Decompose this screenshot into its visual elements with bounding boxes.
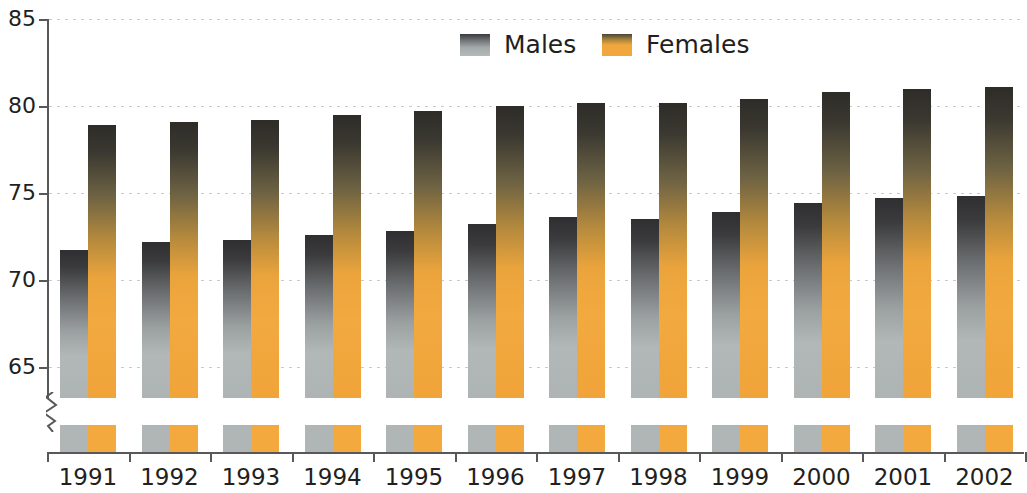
gridline-80: [49, 106, 1024, 107]
x-tick-1992: [129, 452, 131, 462]
bar-stub-females-2000: [822, 425, 850, 452]
x-axis-label-1991: 1991: [47, 463, 129, 491]
bar-stub-males-1999: [712, 425, 740, 452]
x-tick-1995: [373, 452, 375, 462]
bar-stub-males-1994: [305, 425, 333, 452]
bar-females-2000: [822, 92, 850, 398]
bar-males-1996: [468, 224, 496, 398]
x-axis-label-2000: 2000: [781, 463, 863, 491]
y-tick-80: [39, 106, 49, 108]
y-tick-75: [39, 193, 49, 195]
bar-females-2002: [985, 87, 1013, 398]
bar-stub-males-1997: [549, 425, 577, 452]
bar-females-1999: [740, 99, 768, 398]
x-axis-label-1996: 1996: [455, 463, 537, 491]
bar-stub-females-1995: [414, 425, 442, 452]
bar-stub-females-1999: [740, 425, 768, 452]
bar-stub-males-1998: [631, 425, 659, 452]
bar-stub-females-1991: [88, 425, 116, 452]
bar-males-1995: [386, 231, 414, 398]
bar-stub-females-1998: [659, 425, 687, 452]
bar-stub-females-1994: [333, 425, 361, 452]
x-tick-1997: [536, 452, 538, 462]
bar-males-1997: [549, 217, 577, 398]
legend-label-males: Males: [504, 30, 576, 60]
bar-stub-females-2001: [903, 425, 931, 452]
bar-males-2001: [875, 198, 903, 398]
x-axis-label-1992: 1992: [129, 463, 211, 491]
x-axis-label-1994: 1994: [292, 463, 374, 491]
bar-stub-females-1992: [170, 425, 198, 452]
bar-females-1997: [577, 103, 605, 398]
x-tick-1994: [292, 452, 294, 462]
bar-males-1994: [305, 235, 333, 398]
y-tick-70: [39, 280, 49, 282]
legend-swatch-males-icon: [460, 34, 490, 56]
bar-stub-males-1991: [60, 425, 88, 452]
bar-females-1991: [88, 125, 116, 398]
legend-label-females: Females: [646, 30, 749, 60]
bar-females-1995: [414, 111, 442, 398]
y-axis-label-85: 85: [2, 8, 36, 30]
x-axis-label-1999: 1999: [699, 463, 781, 491]
bar-stub-females-1997: [577, 425, 605, 452]
y-axis-label-80: 80: [2, 95, 36, 117]
y-axis-label-70: 70: [2, 269, 36, 291]
y-tick-85: [39, 19, 49, 21]
x-axis-label-2002: 2002: [944, 463, 1026, 491]
bar-stub-males-2002: [957, 425, 985, 452]
x-tick-2001: [862, 452, 864, 462]
bar-females-1994: [333, 115, 361, 398]
x-tick-1999: [699, 452, 701, 462]
bar-males-2002: [957, 196, 985, 398]
x-axis-label-1993: 1993: [210, 463, 292, 491]
bar-females-1996: [496, 106, 524, 398]
x-tick-1991: [47, 452, 49, 462]
bar-stub-females-2002: [985, 425, 1013, 452]
x-tick-2002: [944, 452, 946, 462]
axis-break-icon: [36, 392, 62, 432]
x-axis-label-2001: 2001: [862, 463, 944, 491]
x-tick-1996: [455, 452, 457, 462]
bar-stub-males-1992: [142, 425, 170, 452]
bar-females-1998: [659, 103, 687, 398]
bar-stub-females-1993: [251, 425, 279, 452]
bar-females-2001: [903, 89, 931, 398]
bar-stub-males-2000: [794, 425, 822, 452]
bar-stub-females-1996: [496, 425, 524, 452]
x-tick-1998: [618, 452, 620, 462]
y-axis-line: [47, 19, 49, 398]
bar-males-1991: [60, 250, 88, 398]
y-axis-label-65: 65: [2, 356, 36, 378]
bar-stub-males-1995: [386, 425, 414, 452]
x-tick-1993: [210, 452, 212, 462]
bar-females-1993: [251, 120, 279, 398]
bar-females-1992: [170, 122, 198, 398]
y-tick-65: [39, 367, 49, 369]
bar-stub-males-1993: [223, 425, 251, 452]
bar-males-1993: [223, 240, 251, 398]
bar-stub-males-2001: [875, 425, 903, 452]
gridline-85: [49, 19, 1024, 20]
bar-males-1998: [631, 219, 659, 398]
x-tick-2000: [781, 452, 783, 462]
y-axis-label-75: 75: [2, 182, 36, 204]
bar-stub-males-1996: [468, 425, 496, 452]
bar-males-1992: [142, 242, 170, 398]
x-axis-label-1997: 1997: [536, 463, 618, 491]
legend-swatch-females-icon: [602, 34, 632, 56]
bar-males-1999: [712, 212, 740, 398]
x-axis-label-1995: 1995: [373, 463, 455, 491]
x-axis-label-1998: 1998: [618, 463, 700, 491]
bar-males-2000: [794, 203, 822, 398]
